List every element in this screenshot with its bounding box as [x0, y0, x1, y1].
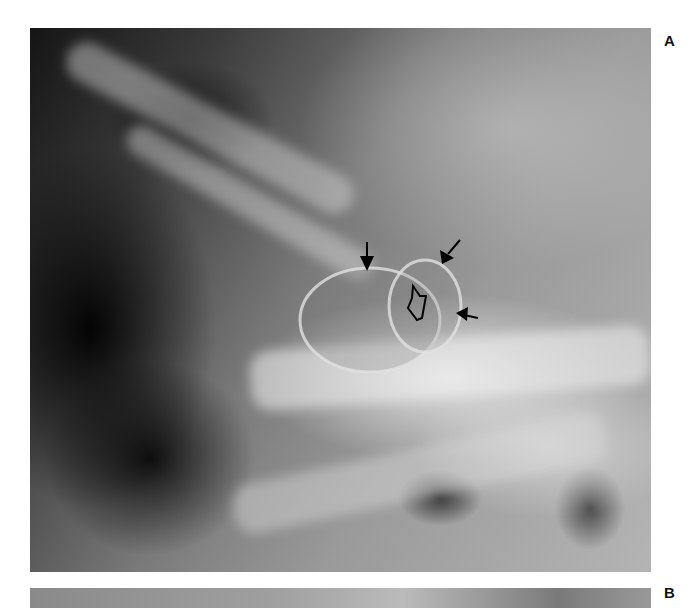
- lesion-annotation: [30, 28, 651, 572]
- arrow-down-left-icon: [440, 240, 460, 264]
- panel-label-b: B: [664, 584, 675, 601]
- panel-label-a: A: [664, 32, 675, 49]
- radiograph-panel-b: [30, 588, 651, 608]
- radiograph-panel-a: [30, 28, 651, 572]
